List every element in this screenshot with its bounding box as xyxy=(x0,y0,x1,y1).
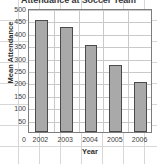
x-tick-label-2002: 2002 xyxy=(28,135,53,144)
y-gridline xyxy=(29,10,151,11)
y-tick-label-350: 350 xyxy=(0,43,26,50)
y-axis-zero-label: 0 xyxy=(0,135,26,144)
x-tick-label-2004: 2004 xyxy=(78,135,103,144)
y-tick-label-300: 300 xyxy=(0,56,26,63)
y-axis-tick-labels: 50045040035030025020015010050 xyxy=(0,9,26,133)
y-tick-label-450: 450 xyxy=(0,18,26,25)
y-tick-label-150: 150 xyxy=(0,93,26,100)
x-gridline xyxy=(79,10,80,132)
y-tick-label-250: 250 xyxy=(0,68,26,75)
bar-2004 xyxy=(85,45,98,132)
bar-2002 xyxy=(35,20,48,132)
x-tick-label-2005: 2005 xyxy=(102,135,127,144)
bar-2006 xyxy=(134,82,147,132)
x-axis-title: Year xyxy=(28,147,152,156)
chart-screenshot: Attendance at Soccer Team Mean Attendanc… xyxy=(0,0,157,164)
plot-area xyxy=(28,9,152,133)
x-tick-label-2006: 2006 xyxy=(127,135,152,144)
x-tick-label-2003: 2003 xyxy=(53,135,78,144)
y-tick-label-400: 400 xyxy=(0,31,26,38)
chart-title: Attendance at Soccer Team xyxy=(0,0,157,5)
bar-2003 xyxy=(60,27,73,132)
bar-2005 xyxy=(109,65,122,132)
x-axis-tick-labels: 20022003200420052006 xyxy=(28,135,152,146)
y-tick-label-500: 500 xyxy=(0,6,26,13)
y-tick-label-200: 200 xyxy=(0,80,26,87)
x-gridline xyxy=(54,10,55,132)
y-tick-label-100: 100 xyxy=(0,105,26,112)
y-tick-label-50: 50 xyxy=(0,118,26,125)
x-gridline xyxy=(103,10,104,132)
x-gridline xyxy=(128,10,129,132)
